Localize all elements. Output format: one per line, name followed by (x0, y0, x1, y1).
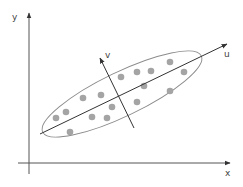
data-point (80, 95, 87, 102)
data-point (53, 115, 60, 122)
data-point (148, 68, 155, 75)
data-point (109, 104, 116, 111)
y-axis-label: y (12, 12, 18, 22)
pca-diagram: y x u v (0, 0, 243, 187)
data-point (118, 74, 125, 81)
data-point (134, 69, 141, 76)
x-axis-label: x (225, 168, 231, 178)
data-point (98, 92, 105, 99)
data-point (167, 59, 174, 66)
data-point (67, 129, 74, 136)
data-point (181, 69, 188, 76)
data-point (167, 88, 174, 95)
u-axis (40, 44, 227, 134)
data-point (104, 115, 111, 122)
u-axis-label: u (224, 49, 230, 59)
data-point (134, 99, 141, 106)
data-point (89, 114, 96, 121)
data-point (63, 109, 70, 116)
v-axis-label: v (105, 50, 111, 60)
